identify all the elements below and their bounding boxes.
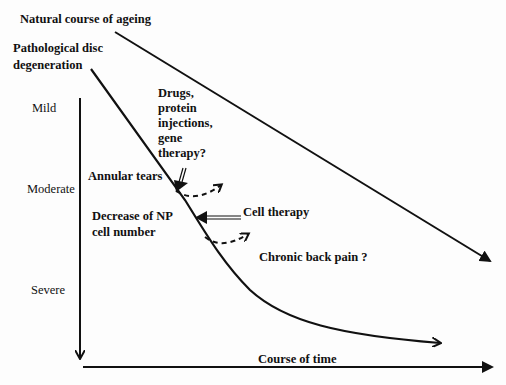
natural-ageing-label: Natural course of ageing: [20, 12, 151, 27]
pathological-degeneration-label-line1: Pathological disc: [13, 41, 103, 56]
cell-therapy-double-arrow: [195, 211, 241, 224]
severity-moderate-label: Moderate: [27, 182, 75, 197]
drugs-label-line3: injections,: [158, 116, 213, 131]
cell-therapy-label: Cell therapy: [243, 205, 309, 220]
annular-tears-label: Annular tears: [88, 169, 162, 184]
severity-severe-label: Severe: [31, 283, 65, 298]
drugs-label-line4: gene: [158, 131, 182, 146]
drugs-double-arrow: [174, 168, 188, 192]
time-axis-label: Course of time: [258, 352, 336, 367]
drugs-label-line5: therapy?: [158, 146, 206, 161]
severity-mild-label: Mild: [32, 101, 56, 116]
pathological-degeneration-label-line2: degeneration: [13, 58, 82, 73]
drugs-label-line1: Drugs,: [158, 86, 194, 101]
np-decrease-label-line1: Decrease of NP: [92, 209, 173, 224]
np-decrease-label-line2: cell number: [92, 225, 156, 240]
disc-degeneration-diagram: Natural course of ageing Pathological di…: [0, 0, 506, 385]
drugs-label-line2: protein: [158, 101, 197, 116]
chronic-back-pain-label: Chronic back pain ?: [259, 250, 367, 265]
